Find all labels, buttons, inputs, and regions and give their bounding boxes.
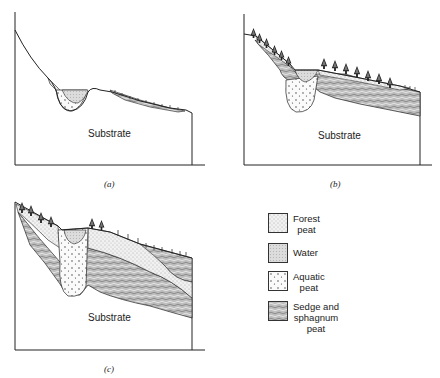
substrate-label-c: Substrate xyxy=(88,312,131,323)
legend-label: Sedge and xyxy=(293,301,339,312)
legend-label: Forest xyxy=(293,213,320,224)
aquatic-peat-swatch-icon xyxy=(268,271,288,291)
legend-label: Aquatic xyxy=(293,271,325,282)
caption-b: (b) xyxy=(330,179,341,189)
legend: Forest peat Water Aquatic peat Sedge and… xyxy=(268,213,428,342)
panel-a xyxy=(15,12,205,165)
legend-item-water: Water xyxy=(268,243,428,263)
sedge-peat-swatch-icon xyxy=(268,301,288,321)
caption-c: (c) xyxy=(104,364,114,374)
legend-label: Water xyxy=(293,247,318,258)
panel-c xyxy=(15,202,205,350)
caption-a: (a) xyxy=(104,179,115,189)
panel-b xyxy=(244,14,432,165)
legend-item-forest-peat: Forest peat xyxy=(268,213,428,235)
forest-peat-swatch-icon xyxy=(268,213,288,233)
substrate-label-b: Substrate xyxy=(318,130,361,141)
legend-item-aquatic-peat: Aquatic peat xyxy=(268,271,428,293)
water-swatch-icon xyxy=(268,243,288,263)
legend-label: sphagnum xyxy=(293,312,339,323)
legend-label: peat xyxy=(293,282,325,293)
tree-icons xyxy=(19,202,105,230)
legend-label: peat xyxy=(293,224,320,235)
legend-label: peat xyxy=(293,323,339,334)
substrate-label-a: Substrate xyxy=(88,128,131,139)
legend-item-sedge-peat: Sedge and sphagnum peat xyxy=(268,301,428,334)
